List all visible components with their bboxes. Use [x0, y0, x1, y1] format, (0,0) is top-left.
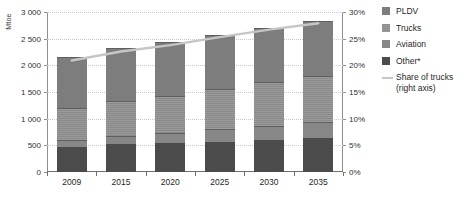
- plot-area: 05001 0001 5002 0002 5003 000 0%5%10%15%…: [47, 12, 343, 172]
- legend-swatch-icon: [382, 7, 390, 15]
- y2-tick-label: 20%: [349, 61, 365, 70]
- y2-tick-label: 25%: [349, 34, 365, 43]
- y2-tick: [343, 145, 346, 146]
- legend-swatch-icon: [382, 24, 390, 32]
- x-tick-label: 2025: [210, 177, 229, 187]
- legend: PLDVTrucksAviationOther* Share of trucks…: [382, 6, 468, 100]
- bar-segment-aviation: [205, 129, 235, 141]
- x-tick: [96, 172, 97, 176]
- legend-swatch-icon: [382, 40, 390, 48]
- bar-2009: [57, 12, 87, 172]
- x-tick: [47, 172, 48, 176]
- y2-tick: [343, 65, 346, 66]
- x-tick-label: 2015: [112, 177, 131, 187]
- bar-2020: [155, 12, 185, 172]
- y-tick-label: 0: [37, 168, 41, 177]
- bar-group: [47, 12, 343, 172]
- y-tick-label: 1 500: [21, 88, 41, 97]
- bar-2025: [205, 12, 235, 172]
- line-swatch-icon: [382, 77, 393, 79]
- legend-item-pldv: PLDV: [382, 6, 468, 17]
- legend-label: Aviation: [396, 39, 426, 49]
- legend-item-trucks: Trucks: [382, 23, 468, 34]
- y2-tick: [343, 92, 346, 93]
- bar-2030: [254, 12, 284, 172]
- y-tick-label: 2 000: [21, 61, 41, 70]
- bar-segment-other: [254, 140, 284, 172]
- bar-segment-other: [303, 138, 333, 172]
- bar-segment-trucks: [57, 108, 87, 140]
- x-tick: [294, 172, 295, 176]
- bar-segment-pldv: [106, 48, 136, 101]
- bar-segment-trucks: [303, 76, 333, 122]
- legend-label: PLDV: [396, 6, 418, 16]
- y-tick-label: 1 000: [21, 114, 41, 123]
- x-tick-label: 2030: [260, 177, 279, 187]
- x-tick: [195, 172, 196, 176]
- y2-tick: [343, 39, 346, 40]
- bar-segment-aviation: [303, 122, 333, 138]
- bar-segment-trucks: [254, 82, 284, 125]
- y-tick-label: 3 000: [21, 8, 41, 17]
- bar-segment-pldv: [205, 35, 235, 89]
- bar-2035: [303, 12, 333, 172]
- x-axis-labels: 200920152020202520302035: [47, 177, 343, 193]
- bar-segment-other: [57, 147, 87, 172]
- legend-label: Trucks: [396, 23, 421, 33]
- x-tick: [343, 172, 344, 176]
- bar-segment-pldv: [254, 28, 284, 82]
- y2-tick: [343, 119, 346, 120]
- legend-line-label-2: (right axis): [396, 83, 436, 93]
- y2-tick-label: 10%: [349, 114, 365, 123]
- bar-segment-aviation: [155, 133, 185, 143]
- chart-root: Mtoe 05001 0001 5002 0002 5003 000 0%5%1…: [0, 0, 468, 201]
- bar-segment-pldv: [303, 21, 333, 76]
- legend-swatch-icon: [382, 57, 390, 65]
- legend-item-aviation: Aviation: [382, 39, 468, 50]
- y2-tick-label: 0%: [349, 168, 361, 177]
- bar-segment-aviation: [57, 140, 87, 147]
- bar-segment-trucks: [155, 96, 185, 133]
- x-tick: [244, 172, 245, 176]
- y-tick-label: 500: [28, 141, 41, 150]
- bar-segment-trucks: [106, 101, 136, 136]
- legend-items: PLDVTrucksAviationOther*: [382, 6, 468, 67]
- legend-line-label-1: Share of trucks: [396, 72, 453, 82]
- bar-segment-pldv: [155, 42, 185, 96]
- y-axis-title: Mtoe: [5, 2, 12, 42]
- bar-segment-pldv: [57, 57, 87, 108]
- y2-tick-label: 15%: [349, 88, 365, 97]
- x-tick-label: 2009: [62, 177, 81, 187]
- bar-segment-aviation: [254, 126, 284, 140]
- x-tick-label: 2035: [309, 177, 328, 187]
- bar-segment-aviation: [106, 136, 136, 145]
- bar-segment-other: [205, 142, 235, 172]
- legend-label: Other*: [396, 56, 421, 66]
- y2-tick-label: 30%: [349, 8, 365, 17]
- y2-tick: [343, 12, 346, 13]
- legend-item-other: Other*: [382, 56, 468, 67]
- x-tick: [146, 172, 147, 176]
- legend-line-label: Share of trucks (right axis): [396, 72, 453, 94]
- bar-segment-trucks: [205, 89, 235, 129]
- bar-2015: [106, 12, 136, 172]
- y-tick-label: 2 500: [21, 34, 41, 43]
- bar-segment-other: [106, 144, 136, 172]
- bar-segment-other: [155, 143, 185, 172]
- x-tick-label: 2020: [161, 177, 180, 187]
- y2-tick-label: 5%: [349, 141, 361, 150]
- legend-item-share-of-trucks: Share of trucks (right axis): [382, 72, 468, 94]
